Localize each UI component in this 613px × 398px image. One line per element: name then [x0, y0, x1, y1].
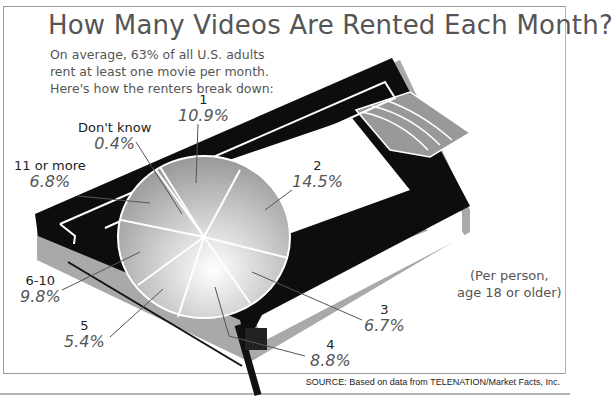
label-category: 2 [292, 158, 343, 173]
label-6-10: 6-10 9.8% [20, 273, 61, 306]
label-percent: 8.8% [310, 352, 351, 370]
label-category: Don't know [78, 120, 151, 135]
note-line-1: (Per person, [457, 267, 562, 284]
label-4: 4 8.8% [310, 337, 351, 370]
label-2: 2 14.5% [292, 158, 343, 191]
label-percent: 6.7% [364, 317, 405, 335]
label-dont-know: Don't know 0.4% [78, 120, 151, 153]
note-line-2: age 18 or older) [457, 284, 562, 301]
chart-subtitle: On average, 63% of all U.S. adults rent … [50, 46, 290, 97]
label-percent: 6.8% [14, 173, 86, 191]
label-category: 4 [310, 337, 351, 352]
label-category: 3 [364, 302, 405, 317]
pie-chart [118, 156, 290, 318]
label-percent: 14.5% [292, 173, 343, 191]
chart-title: How Many Videos Are Rented Each Month? [48, 10, 613, 40]
source-note: SOURCE: Based on data from TELENATION/Ma… [306, 377, 560, 387]
label-3: 3 6.7% [364, 302, 405, 335]
label-percent: 10.9% [178, 107, 229, 125]
label-5: 5 5.4% [64, 318, 105, 351]
label-percent: 9.8% [20, 288, 61, 306]
label-category: 5 [64, 318, 105, 333]
label-11-or-more: 11 or more 6.8% [14, 158, 86, 191]
label-percent: 0.4% [78, 135, 151, 153]
label-category: 1 [178, 92, 229, 107]
label-category: 6-10 [20, 273, 61, 288]
population-note: (Per person, age 18 or older) [457, 267, 562, 301]
label-1: 1 10.9% [178, 92, 229, 125]
label-category: 11 or more [14, 158, 86, 173]
label-percent: 5.4% [64, 333, 105, 351]
